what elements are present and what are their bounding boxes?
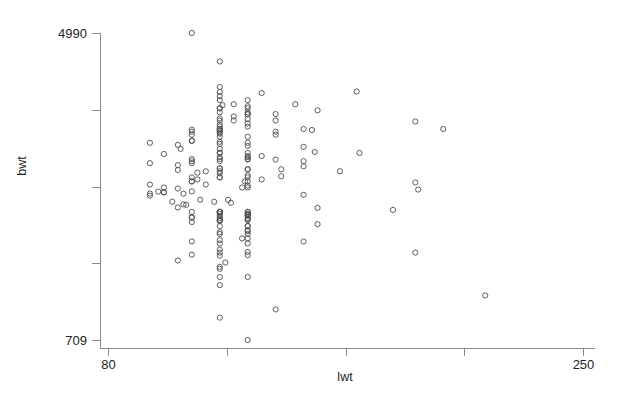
- data-point: [273, 307, 278, 312]
- data-point: [413, 180, 418, 185]
- data-point: [245, 249, 250, 254]
- data-point: [195, 170, 200, 175]
- data-point: [240, 185, 245, 190]
- data-point: [240, 236, 245, 241]
- data-point: [217, 315, 222, 320]
- data-point: [181, 191, 186, 196]
- data-points-layer: [147, 30, 488, 342]
- x-axis-title: lwt: [337, 370, 353, 384]
- data-point: [175, 142, 180, 147]
- data-point: [147, 182, 152, 187]
- data-point: [312, 149, 317, 154]
- data-point: [413, 119, 418, 124]
- data-point: [189, 30, 194, 35]
- data-point: [309, 127, 314, 132]
- data-point: [315, 222, 320, 227]
- scatter-plot-figure: 7094990 bwt 80250 lwt: [0, 0, 618, 408]
- data-point: [259, 90, 264, 95]
- data-point: [301, 239, 306, 244]
- x-axis-tick-label: 250: [573, 357, 595, 372]
- data-point: [441, 126, 446, 131]
- data-point: [217, 224, 222, 229]
- data-point: [301, 144, 306, 149]
- data-point: [161, 151, 166, 156]
- x-axis-ticks: [109, 348, 584, 356]
- chart-canvas: 7094990 bwt 80250 lwt: [0, 0, 618, 408]
- data-point: [217, 59, 222, 64]
- data-point: [217, 84, 222, 89]
- data-point: [147, 161, 152, 166]
- data-point: [273, 118, 278, 123]
- data-point: [223, 260, 228, 265]
- data-point: [217, 238, 222, 243]
- data-point: [245, 98, 250, 103]
- data-point: [217, 283, 222, 288]
- y-axis-tick-labels: 7094990: [58, 26, 87, 348]
- data-point: [483, 293, 488, 298]
- data-point: [416, 187, 421, 192]
- data-point: [273, 111, 278, 116]
- data-point: [245, 241, 250, 246]
- y-axis-ticks: [92, 34, 100, 341]
- data-point: [259, 177, 264, 182]
- data-point: [189, 138, 194, 143]
- data-point: [175, 205, 180, 210]
- data-point: [337, 169, 342, 174]
- data-point: [315, 205, 320, 210]
- data-point: [245, 274, 250, 279]
- y-axis-tick-label: 4990: [58, 26, 87, 41]
- data-point: [301, 192, 306, 197]
- data-point: [203, 182, 208, 187]
- data-point: [357, 150, 362, 155]
- y-axis-tick-label: 709: [65, 333, 87, 348]
- data-point: [156, 189, 161, 194]
- data-point: [231, 102, 236, 107]
- data-point: [170, 199, 175, 204]
- data-point: [301, 159, 306, 164]
- data-point: [390, 207, 395, 212]
- data-point: [189, 239, 194, 244]
- x-axis-tick-label: 80: [101, 357, 115, 372]
- data-point: [147, 140, 152, 145]
- data-point: [212, 199, 217, 204]
- data-point: [175, 186, 180, 191]
- data-point: [189, 209, 194, 214]
- data-point: [189, 189, 194, 194]
- y-axis-group: 7094990 bwt: [15, 26, 100, 348]
- y-axis-title: bwt: [15, 156, 29, 176]
- data-point: [203, 169, 208, 174]
- data-point: [354, 89, 359, 94]
- data-point: [279, 174, 284, 179]
- data-point: [245, 167, 250, 172]
- data-point: [279, 167, 284, 172]
- x-axis-group: 80250 lwt: [100, 348, 595, 384]
- data-point: [175, 258, 180, 263]
- data-point: [189, 252, 194, 257]
- data-point: [217, 274, 222, 279]
- data-point: [273, 157, 278, 162]
- data-point: [198, 197, 203, 202]
- data-point: [315, 108, 320, 113]
- data-point: [293, 102, 298, 107]
- data-point: [413, 250, 418, 255]
- data-point: [259, 153, 264, 158]
- data-point: [245, 337, 250, 342]
- data-point: [245, 140, 250, 145]
- data-point: [195, 177, 200, 182]
- data-point: [301, 126, 306, 131]
- data-point: [301, 164, 306, 169]
- data-point: [245, 134, 250, 139]
